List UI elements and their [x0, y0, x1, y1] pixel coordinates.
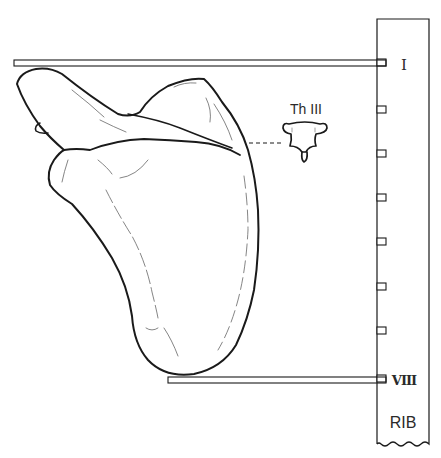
- scapula-outline: [17, 69, 259, 375]
- inferior-angle-inner-line: [146, 328, 178, 356]
- rib-tick-3: [377, 150, 386, 157]
- rib-label-bottom: VIII: [391, 373, 417, 388]
- acromion-inner-line: [72, 90, 126, 132]
- supraspinous-inner-line: [174, 83, 232, 140]
- vertebra-spinous-process: [302, 152, 307, 162]
- scapular-spine: [128, 114, 232, 148]
- rib-label-top: I: [401, 56, 407, 74]
- rib-tick-7: [377, 327, 386, 334]
- rib-tick-4: [377, 194, 386, 201]
- vertebra-th3: [283, 122, 327, 162]
- medial-border-inner-line: [218, 176, 248, 350]
- rib-scale-title: RIB: [390, 414, 417, 431]
- rib-tick-2: [377, 106, 386, 113]
- vertebra-label: Th III: [290, 101, 322, 117]
- glenoid-inner-line: [62, 160, 148, 182]
- vertebra-body-outline: [283, 122, 327, 152]
- reference-bar-rib-1: [14, 60, 386, 66]
- scapula: [17, 69, 259, 375]
- reference-bar-rib-8: [168, 377, 386, 383]
- lateral-border-inner-line: [106, 190, 158, 318]
- rib-tick-5: [377, 238, 386, 245]
- vertebra-inner-line: [292, 128, 315, 132]
- scapula-rib-diagram: I VIII RIB Th III: [0, 0, 441, 458]
- rib-tick-8: [377, 375, 386, 382]
- rib-ticks: [377, 59, 386, 382]
- rib-tick-6: [377, 283, 386, 290]
